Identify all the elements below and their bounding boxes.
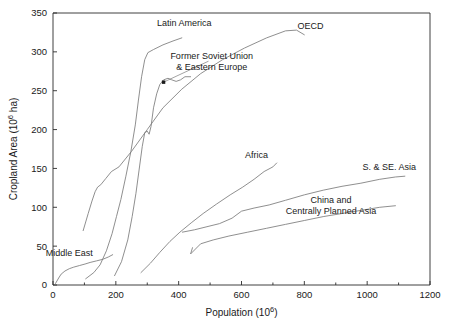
series-label-s-se-asia: S. & SE. Asia — [362, 162, 416, 172]
series-label-former-soviet-union-eastern-europe-line2: & Eastern Europe — [176, 62, 247, 72]
x-tick-label: 1200 — [419, 289, 440, 300]
x-axis-title-tail: ) — [274, 307, 277, 318]
y-tick-label: 0 — [42, 279, 47, 290]
y-tick-label: 150 — [31, 163, 47, 174]
series-label-latin-america: Latin America — [157, 18, 212, 28]
x-tick-label: 600 — [234, 289, 250, 300]
series-label-middle-east: Middle East — [46, 248, 94, 258]
y-axis-title: Cropland Area (106 ha) — [6, 98, 19, 201]
x-tick-label: 1000 — [357, 289, 378, 300]
series-label-china-and-centrally-planned-asia-line2: Centrally Planned Asia — [286, 206, 377, 216]
series-label-former-soviet-union-eastern-europe: Former Soviet Union — [170, 51, 253, 61]
series-label-africa: Africa — [245, 150, 268, 160]
series-label-oecd: OECD — [298, 21, 325, 31]
y-tick-label: 350 — [31, 7, 47, 18]
chart-canvas: 0501001502002503003500200400600800100012… — [0, 0, 451, 324]
y-tick-label: 300 — [31, 46, 47, 57]
cropland-population-chart: 0501001502002503003500200400600800100012… — [0, 0, 451, 324]
y-tick-label: 250 — [31, 85, 47, 96]
x-axis-title: Population (106) — [205, 305, 277, 318]
series-label-china-and-centrally-planned-asia: China and — [311, 195, 352, 205]
y-axis-title-tail: ha) — [8, 98, 19, 115]
x-tick-label: 0 — [50, 289, 55, 300]
x-tick-label: 200 — [108, 289, 124, 300]
fsu-leader-marker — [162, 80, 165, 83]
y-tick-label: 200 — [31, 124, 47, 135]
x-tick-label: 800 — [296, 289, 312, 300]
x-tick-label: 400 — [171, 289, 187, 300]
y-tick-label: 100 — [31, 202, 47, 213]
